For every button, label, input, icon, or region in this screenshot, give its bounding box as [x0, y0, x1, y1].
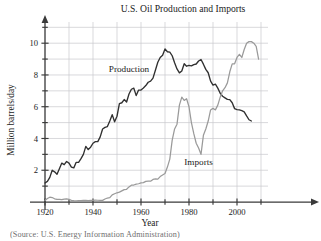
x-tick-label: 1920 [36, 207, 53, 217]
series-annotations: ProductionImports [109, 64, 213, 168]
data-series [45, 42, 259, 201]
tick-marks [41, 27, 261, 205]
x-tick-label: 1980 [180, 207, 197, 217]
x-tick-label: 1960 [132, 207, 149, 217]
annotation-production: Production [109, 64, 150, 74]
x-axis-label: Year [141, 218, 159, 228]
chart-title: U.S. Oil Production and Imports [121, 3, 246, 14]
series-line-imports [45, 42, 259, 201]
x-tick-label: 1940 [84, 207, 101, 217]
annotation-imports: Imports [184, 157, 213, 167]
figure-source-caption: (Source: U.S. Energy Information Adminis… [10, 230, 315, 239]
y-tick-label: 6 [34, 102, 39, 112]
axes [30, 15, 319, 210]
y-tick-label: 10 [29, 38, 38, 48]
oil-production-imports-chart: 19201940196019802000246810 ProductionImp… [0, 0, 321, 241]
gridlines [45, 22, 268, 202]
y-tick-label: 8 [34, 70, 38, 80]
y-axis-label: Million barrels/day [6, 84, 16, 156]
x-axis-arrowhead [311, 199, 319, 206]
y-axis-arrowhead [42, 15, 49, 23]
chart-figure: 19201940196019802000246810 ProductionImp… [0, 0, 321, 241]
x-tick-label: 2000 [228, 207, 245, 217]
y-tick-label: 4 [34, 134, 39, 144]
y-tick-label: 2 [34, 165, 38, 175]
